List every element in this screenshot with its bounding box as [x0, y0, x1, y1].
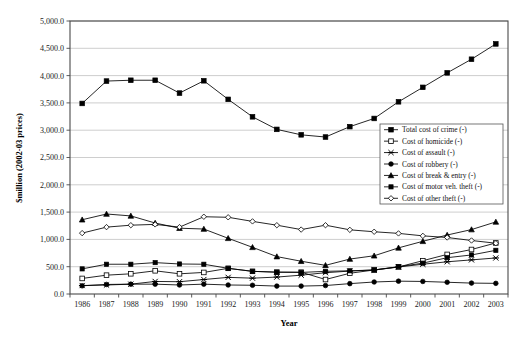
data-point-marker — [177, 91, 182, 96]
data-point-marker — [202, 270, 207, 275]
data-point-marker — [250, 245, 256, 250]
y-tick-label: 2,500.0 — [40, 153, 64, 162]
x-tick-label: 2003 — [488, 300, 504, 309]
data-point-marker — [153, 282, 158, 287]
data-point-marker — [80, 284, 85, 289]
x-tick-label: 1997 — [342, 300, 358, 309]
data-point-marker — [494, 42, 499, 47]
y-axis-tick-labels: 0.0500.01,000.01,500.02,000.02,500.03,00… — [40, 17, 64, 299]
data-point-marker — [225, 275, 231, 280]
y-tick-label: 1,000.0 — [40, 235, 64, 244]
x-tick-label: 1999 — [391, 300, 407, 309]
data-point-marker — [129, 78, 134, 83]
data-point-marker — [177, 283, 182, 288]
data-point-marker — [469, 57, 474, 62]
data-point-marker — [299, 270, 303, 274]
series-5 — [80, 248, 498, 274]
series-line — [82, 250, 496, 272]
data-point-marker — [80, 267, 84, 271]
data-point-marker — [323, 269, 327, 273]
data-point-marker — [494, 248, 498, 252]
data-point-marker — [202, 78, 207, 83]
chart-canvas: 0.0500.01,000.01,500.02,000.02,500.03,00… — [0, 0, 531, 341]
y-tick-label: 1,500.0 — [40, 208, 64, 217]
legend-item-label: Cost of assault (-) — [402, 148, 455, 157]
data-point-marker — [226, 283, 231, 288]
data-point-marker — [274, 223, 279, 228]
data-point-marker — [226, 97, 231, 102]
data-point-marker — [226, 266, 230, 270]
data-point-marker — [129, 262, 133, 266]
data-point-marker — [421, 261, 425, 265]
data-point-marker — [347, 227, 352, 232]
y-tick-label: 3,500.0 — [40, 99, 64, 108]
data-point-marker — [153, 268, 158, 273]
data-point-marker — [201, 214, 206, 219]
data-point-marker — [396, 100, 401, 105]
data-point-marker — [445, 256, 449, 260]
data-point-marker — [323, 135, 328, 140]
data-point-marker — [129, 271, 134, 276]
data-point-marker — [153, 261, 157, 265]
data-point-marker — [104, 224, 109, 229]
data-point-marker — [202, 282, 207, 287]
legend-item-label: Total cost of crime (-) — [402, 125, 467, 134]
x-tick-label: 1996 — [318, 300, 334, 309]
legend-item-label: Cost of homicide (-) — [402, 137, 463, 146]
legend-item-label: Cost of motor veh. theft (-) — [402, 182, 483, 191]
data-point-marker — [104, 282, 109, 287]
data-point-marker — [128, 223, 133, 228]
y-axis-title: $million (2002-03 prices) — [14, 113, 24, 203]
series-1 — [80, 241, 498, 282]
data-point-marker — [348, 124, 353, 129]
data-point-marker — [104, 262, 108, 266]
x-tick-label: 1993 — [245, 300, 261, 309]
x-tick-label: 2000 — [415, 300, 431, 309]
data-point-marker — [396, 279, 401, 284]
legend-item-label: Cost of break & entry (-) — [402, 171, 476, 180]
data-point-marker — [389, 162, 394, 167]
legend: Total cost of crime (-)Cost of homicide … — [380, 124, 503, 204]
y-tick-label: 0.0 — [54, 290, 64, 299]
data-point-marker — [79, 230, 84, 235]
data-point-marker — [468, 257, 474, 262]
data-point-marker — [250, 219, 255, 224]
data-point-marker — [421, 85, 426, 90]
data-point-marker — [104, 79, 109, 84]
data-point-marker — [469, 253, 473, 257]
data-point-marker — [396, 231, 401, 236]
data-point-marker — [421, 279, 426, 284]
data-point-marker — [445, 280, 450, 285]
data-point-marker — [372, 116, 377, 121]
y-tick-label: 2,000.0 — [40, 181, 64, 190]
legend-item-label: Cost of robbery (-) — [402, 160, 458, 169]
data-point-marker — [372, 268, 376, 272]
data-point-marker — [420, 233, 425, 238]
x-tick-label: 1995 — [293, 300, 309, 309]
data-point-marker — [104, 273, 109, 278]
data-point-marker — [129, 282, 134, 287]
data-point-marker — [323, 277, 328, 282]
data-point-marker — [493, 255, 499, 260]
data-point-marker — [177, 262, 181, 266]
data-point-marker — [249, 276, 255, 281]
data-point-marker — [225, 236, 231, 241]
data-point-marker — [348, 269, 352, 273]
data-point-marker — [494, 281, 499, 286]
data-point-marker — [389, 139, 394, 144]
data-point-marker — [298, 227, 303, 232]
x-tick-label: 2002 — [464, 300, 480, 309]
series-line — [82, 243, 496, 280]
crime-cost-line-chart: 0.0500.01,000.01,500.02,000.02,500.03,00… — [0, 0, 531, 341]
data-point-marker — [493, 219, 499, 224]
data-point-marker — [469, 247, 474, 252]
x-tick-label: 1987 — [99, 300, 115, 309]
data-point-marker — [348, 281, 353, 286]
data-point-marker — [445, 71, 450, 76]
x-tick-label: 1998 — [366, 300, 382, 309]
series-6 — [79, 214, 498, 246]
x-tick-label: 1992 — [220, 300, 236, 309]
x-tick-label: 1990 — [172, 300, 188, 309]
y-tick-label: 500.0 — [46, 263, 64, 272]
x-axis-tick-labels: 1986198719881989199019911992199319941995… — [74, 300, 504, 309]
